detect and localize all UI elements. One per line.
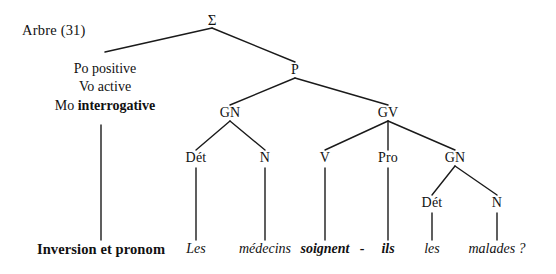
feature-row-vo: Vo active [55,78,155,96]
feature-matrix: Po positiveVo activeMo interrogative [55,60,155,115]
figure-caption: Arbre (31) [22,23,86,38]
tree-terminal-t-medecins: médecins [239,242,291,256]
feature-row-mo: Mo interrogative [55,97,155,115]
tree-edge-e-p-gn1 [230,78,295,105]
tree-node-pro: Pro [378,151,398,165]
tree-node-gn2: GN [445,151,466,165]
tree-node-v: V [320,151,330,165]
tree-edge-e-gn2-det2 [432,166,455,195]
tree-terminal-t-les2: les [424,242,440,256]
tree-edge-e-gv-v [325,121,388,150]
tree-edge-e-gn1-det1 [196,121,230,150]
tree-terminal-t-hyphen: - [360,242,365,256]
tree-edge-e-p-gv [295,78,388,105]
tree-edges-layer [0,0,556,274]
feature-value-mo: interrogative [78,98,156,113]
tree-terminal-t-les1: Les [186,242,205,256]
tree-node-gn1: GN [220,106,241,120]
feature-name-po: Po [74,61,92,76]
feature-name-mo: Mo [55,98,78,113]
tree-node-p: P [291,63,299,77]
tree-node-det1: Dét [186,151,207,165]
tree-edge-e-sigma-feat [105,28,212,52]
feature-value-vo: active [98,79,131,94]
tree-edge-e-gv-gn2 [388,121,455,150]
tree-edge-e-sigma-p [212,28,295,62]
tree-node-det2: Dét [422,196,443,210]
tree-edge-e-gn2-n2 [455,166,497,195]
tree-node-n1: N [260,151,270,165]
feature-name-vo: Vo [79,79,98,94]
tree-terminal-t-ils: ils [381,242,394,256]
tree-edge-e-gn1-n1 [230,121,265,150]
tree-node-n2: N [492,196,502,210]
feature-value-po: positive [92,61,136,76]
feature-row-po: Po positive [55,60,155,78]
tree-terminal-t-malades: malades ? [468,242,525,256]
tree-node-sigma: Σ [208,13,217,28]
tree-terminal-t-soignent: soignent [300,242,349,256]
syntax-tree-figure: ΣPGNGVDétNVProGNDétNLesmédecinssoignent-… [0,0,556,274]
tree-node-gv: GV [378,106,399,120]
inversion-pronoun-label: Inversion et pronom [37,241,165,258]
